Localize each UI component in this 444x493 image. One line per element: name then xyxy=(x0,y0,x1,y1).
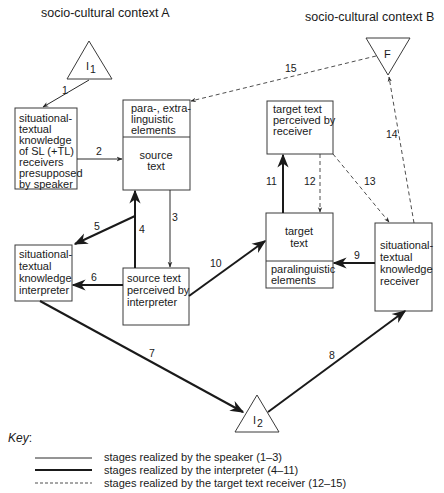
edge-5-label: 5 xyxy=(94,220,100,232)
edge-2-label: 2 xyxy=(96,145,102,157)
interpreter-knowledge-line: knowledge xyxy=(19,272,72,284)
source-perceived-box: source text perceived by interpreter xyxy=(123,268,190,325)
edge-3: 3 xyxy=(170,190,178,267)
edge-14: 14 xyxy=(386,77,414,223)
receiver-knowledge-box: situational- textual knowledge receiver xyxy=(375,223,434,311)
edge-8-label: 8 xyxy=(329,349,335,361)
target-text-line: target xyxy=(285,225,313,237)
edge-6: 6 xyxy=(73,271,123,285)
target-perceived-box: target text perceived by receiver xyxy=(267,101,336,154)
edge-10: 10 xyxy=(189,241,265,296)
edge-2: 2 xyxy=(77,145,122,159)
edge-1: 1 xyxy=(43,80,89,107)
source-perceived-line: perceived by xyxy=(127,284,190,296)
edge-10-label: 10 xyxy=(210,257,222,269)
receiver-knowledge-line: situational- xyxy=(380,239,434,251)
target-text-box: target text paralinguistic elements xyxy=(266,213,336,288)
edge-4-label: 4 xyxy=(139,223,145,235)
edge-15: 15 xyxy=(191,56,376,101)
context-b-heading: socio-cultural context B xyxy=(305,10,434,24)
edge-9: 9 xyxy=(334,249,375,263)
legend-interpreter-label: stages realized by the interpreter (4–11… xyxy=(104,464,298,476)
receiver-knowledge-line: textual xyxy=(380,251,412,263)
source-perceived-line: interpreter xyxy=(127,296,177,308)
i1-label: I xyxy=(86,60,89,72)
legend-receiver-label: stages realized by the target text recei… xyxy=(104,477,346,489)
edge-7-label: 7 xyxy=(149,347,155,359)
speaker-knowledge-box: situational- textual knowledge of SL (+T… xyxy=(15,108,83,190)
legend-item-receiver: stages realized by the target text recei… xyxy=(35,477,346,489)
interpreter-knowledge-box: situational- textual knowledge interpret… xyxy=(15,245,73,301)
edge-11: 11 xyxy=(266,155,283,213)
interpreter-knowledge-line: interpreter xyxy=(19,284,69,296)
context-a-heading: socio-cultural context A xyxy=(41,6,170,20)
speaker-knowledge-line: by speaker xyxy=(19,178,73,190)
source-perceived-line: source text xyxy=(127,272,181,284)
f-label: F xyxy=(384,48,391,60)
legend: Key: stages realized by the speaker (1–3… xyxy=(8,431,346,489)
edge-4: 4 xyxy=(135,191,145,268)
receiver-knowledge-line: knowledge xyxy=(380,263,433,275)
edge-1-label: 1 xyxy=(62,84,68,96)
edge-13-label: 13 xyxy=(364,175,376,187)
edge-6-label: 6 xyxy=(91,271,97,283)
source-text-box: para-, extra- linguistic elements source… xyxy=(123,100,191,190)
i1-triangle: I 1 xyxy=(67,41,112,79)
target-perceived-line: receiver xyxy=(273,125,312,137)
legend-item-speaker: stages realized by the speaker (1–3) xyxy=(35,451,282,463)
legend-item-interpreter: stages realized by the interpreter (4–11… xyxy=(35,464,298,476)
interpreter-knowledge-line: textual xyxy=(19,260,51,272)
translation-process-diagram: socio-cultural context A socio-cultural … xyxy=(0,0,444,493)
target-paralinguistic-line: elements xyxy=(271,274,316,286)
interpreter-knowledge-line: situational- xyxy=(19,248,73,260)
edge-5: 5 xyxy=(75,216,135,244)
legend-title: Key: xyxy=(8,431,32,445)
edge-14-label: 14 xyxy=(386,128,398,140)
edge-9-label: 9 xyxy=(354,249,360,261)
i2-label: I xyxy=(253,414,256,426)
i2-triangle: I 2 xyxy=(235,395,279,432)
edge-12: 12 xyxy=(304,154,320,212)
source-para-line: elements xyxy=(131,124,176,136)
edge-3-label: 3 xyxy=(172,211,178,223)
edge-8: 8 xyxy=(268,311,405,412)
edge-12-label: 12 xyxy=(304,175,316,187)
legend-speaker-label: stages realized by the speaker (1–3) xyxy=(104,451,282,463)
receiver-knowledge-line: receiver xyxy=(380,275,419,287)
source-text-line: text xyxy=(147,160,165,172)
target-text-line: text xyxy=(290,237,308,249)
edge-15-label: 15 xyxy=(285,62,297,74)
i1-subscript: 1 xyxy=(90,63,96,75)
edge-11-label: 11 xyxy=(266,175,277,187)
i2-subscript: 2 xyxy=(257,417,263,429)
edge-13: 13 xyxy=(333,154,389,222)
